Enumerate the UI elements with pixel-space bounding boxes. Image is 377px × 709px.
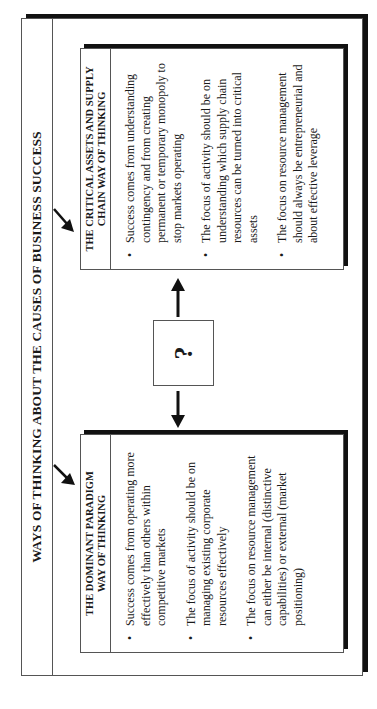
diagram-stage: WAYS OF THINKING ABOUT THE CAUSES OF BUS… xyxy=(0,0,377,709)
arrow-right-icon xyxy=(171,278,185,317)
arrows-layer xyxy=(0,0,377,709)
arrow-left-icon xyxy=(171,391,185,428)
arrow-diagonal-left-icon xyxy=(54,465,75,485)
arrow-diagonal-right-icon xyxy=(54,209,74,232)
